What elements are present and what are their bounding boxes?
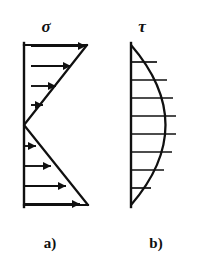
- panel-b-parabolic-envelope: [131, 45, 166, 205]
- tau-symbol-label: τ: [126, 18, 158, 35]
- sigma-symbol-label: σ: [30, 18, 62, 35]
- panel-a-lower-envelope-line: [24, 125, 88, 205]
- panel-a-group: [24, 43, 88, 207]
- panel-a-upper-arrows: [31, 46, 86, 105]
- panel-a-caption: a): [34, 236, 66, 251]
- stress-distribution-figure: σ τ a) b): [0, 0, 207, 273]
- panel-a-lower-arrows: [25, 146, 80, 204]
- panel-b-group: [131, 43, 176, 207]
- panel-a-upper-envelope-line: [24, 45, 87, 125]
- panel-b-caption: b): [140, 236, 172, 251]
- stress-diagram-canvas: [0, 0, 207, 273]
- panel-b-hatch-lines: [131, 62, 176, 188]
